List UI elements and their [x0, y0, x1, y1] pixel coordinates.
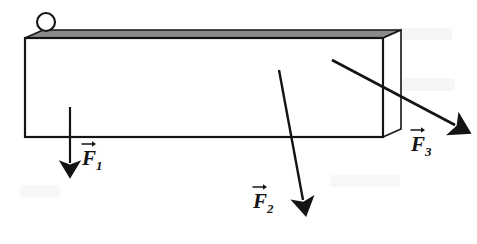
beam-body	[25, 30, 401, 137]
force-vector-f2-subscript: 2	[267, 201, 274, 216]
beam-front-face	[25, 38, 383, 137]
force-vector-f2-label: F 2	[253, 191, 274, 212]
force-vector-f2-letter: F	[253, 189, 267, 213]
force-vector-f2-symbol: F	[253, 191, 267, 212]
force-diagram-canvas	[0, 0, 477, 244]
force-vector-f3-letter: F	[411, 132, 425, 156]
force-vector-f3-label: F 3	[411, 134, 432, 155]
force-vector-f1-letter: F	[82, 146, 96, 170]
force-diagram-figure: F 1 F 2 F 3	[0, 0, 477, 244]
force-vector-f3-symbol: F	[411, 134, 425, 155]
beam-top-face	[25, 30, 401, 38]
force-vector-f1-label: F 1	[82, 148, 103, 169]
force-vector-f1-symbol: F	[82, 148, 96, 169]
roller-ball-icon	[37, 13, 55, 31]
force-vector-f3-subscript: 3	[425, 144, 432, 159]
beam-right-face	[383, 30, 401, 137]
force-vector-f1-subscript: 1	[96, 158, 103, 173]
